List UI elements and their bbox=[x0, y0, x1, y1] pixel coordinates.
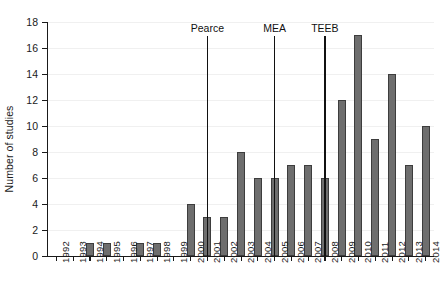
y-tick-label: 10 bbox=[14, 120, 38, 132]
x-tick-mark bbox=[375, 256, 376, 261]
x-tick-mark bbox=[257, 256, 258, 261]
x-tick-label: 2011 bbox=[379, 242, 390, 263]
y-tick-label: 12 bbox=[14, 94, 38, 106]
x-tick-label: 1995 bbox=[111, 241, 122, 263]
x-tick-label: 2013 bbox=[413, 241, 424, 263]
x-tick-label: 2008 bbox=[329, 241, 340, 263]
x-tick-mark bbox=[73, 256, 74, 261]
bar bbox=[422, 126, 430, 256]
bar bbox=[354, 35, 362, 256]
x-tick-mark bbox=[56, 256, 57, 261]
event-line-teeb bbox=[324, 36, 325, 256]
x-tick-mark bbox=[207, 256, 208, 261]
x-tick-label: 2009 bbox=[346, 241, 357, 263]
y-tick-mark bbox=[42, 22, 47, 23]
x-tick-mark bbox=[358, 256, 359, 261]
bar bbox=[338, 100, 346, 256]
x-tick-label: 1992 bbox=[60, 241, 71, 263]
x-tick-label: 2006 bbox=[295, 241, 306, 263]
y-tick-mark bbox=[42, 126, 47, 127]
grid-line bbox=[48, 48, 434, 49]
x-tick-mark bbox=[291, 256, 292, 261]
x-tick-mark bbox=[341, 256, 342, 261]
x-tick-mark bbox=[392, 256, 393, 261]
y-tick-label: 16 bbox=[14, 42, 38, 54]
x-tick-mark bbox=[157, 256, 158, 261]
y-tick-label: 18 bbox=[14, 16, 38, 28]
grid-line bbox=[48, 22, 434, 23]
x-tick-mark bbox=[425, 256, 426, 261]
y-tick-mark bbox=[42, 74, 47, 75]
grid-line bbox=[48, 126, 434, 127]
y-tick-mark bbox=[42, 256, 47, 257]
y-tick-label: 8 bbox=[14, 146, 38, 158]
bar bbox=[371, 139, 379, 256]
x-tick-mark bbox=[241, 256, 242, 261]
y-tick-label: 14 bbox=[14, 68, 38, 80]
x-tick-label: 1997 bbox=[144, 241, 155, 263]
x-tick-label: 2004 bbox=[262, 241, 273, 263]
x-tick-label: 2012 bbox=[396, 241, 407, 263]
x-tick-label: 2000 bbox=[195, 241, 206, 263]
y-tick-mark bbox=[42, 230, 47, 231]
y-tick-mark bbox=[42, 178, 47, 179]
x-tick-label: 2010 bbox=[362, 241, 373, 263]
x-tick-mark bbox=[324, 256, 325, 261]
event-label-pearce: Pearce bbox=[191, 22, 224, 34]
x-tick-label: 1994 bbox=[94, 241, 105, 263]
x-tick-mark bbox=[106, 256, 107, 261]
y-tick-mark bbox=[42, 100, 47, 101]
x-tick-label: 2014 bbox=[430, 241, 440, 263]
x-tick-label: 1999 bbox=[178, 241, 189, 263]
x-tick-mark bbox=[190, 256, 191, 261]
y-tick-label: 6 bbox=[14, 172, 38, 184]
x-tick-mark bbox=[140, 256, 141, 261]
x-tick-mark bbox=[224, 256, 225, 261]
x-tick-mark bbox=[274, 256, 275, 261]
bar bbox=[388, 74, 396, 256]
event-label-teeb: TEEB bbox=[311, 22, 338, 34]
event-label-mea: MEA bbox=[263, 22, 286, 34]
plot-area bbox=[48, 22, 434, 256]
x-tick-label: 1996 bbox=[128, 241, 139, 263]
x-tick-label: 2005 bbox=[279, 241, 290, 263]
x-tick-label: 2003 bbox=[245, 241, 256, 263]
y-tick-mark bbox=[42, 48, 47, 49]
x-tick-mark bbox=[123, 256, 124, 261]
x-tick-mark bbox=[173, 256, 174, 261]
y-tick-label: 2 bbox=[14, 224, 38, 236]
x-tick-mark bbox=[308, 256, 309, 261]
event-line-mea bbox=[274, 36, 275, 256]
x-tick-mark bbox=[89, 256, 90, 261]
x-tick-mark bbox=[408, 256, 409, 261]
x-tick-label: 1993 bbox=[77, 241, 88, 263]
y-tick-mark bbox=[42, 152, 47, 153]
y-tick-label: 0 bbox=[14, 250, 38, 262]
x-tick-label: 1998 bbox=[161, 241, 172, 263]
grid-line bbox=[48, 100, 434, 101]
y-tick-label: 4 bbox=[14, 198, 38, 210]
x-tick-label: 2007 bbox=[312, 241, 323, 263]
event-line-pearce bbox=[207, 36, 208, 256]
x-tick-label: 2002 bbox=[228, 241, 239, 263]
grid-line bbox=[48, 74, 434, 75]
y-tick-mark bbox=[42, 204, 47, 205]
x-tick-label: 2001 bbox=[211, 241, 222, 263]
bar-chart: Number of studies 024681012141618 199219… bbox=[0, 0, 440, 298]
